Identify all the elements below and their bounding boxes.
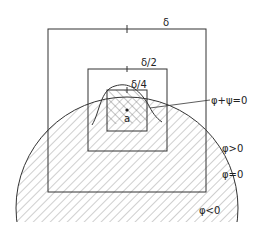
point-a — [125, 108, 128, 111]
label-point-a: a — [124, 113, 130, 124]
label-delta-quarter: δ/4 — [131, 79, 147, 90]
label-phi-positive: φ>0 — [222, 143, 243, 154]
label-delta: δ — [163, 17, 169, 28]
label-phi-zero: φ=0 — [222, 169, 243, 180]
label-interface: φ+ψ=0 — [211, 95, 247, 106]
label-delta-half: δ/2 — [141, 57, 157, 68]
label-phi-negative: φ<0 — [199, 205, 220, 216]
level-set-diagram: δ δ/2 δ/4 a φ+ψ=0 φ>0 φ=0 φ<0 — [0, 0, 256, 232]
